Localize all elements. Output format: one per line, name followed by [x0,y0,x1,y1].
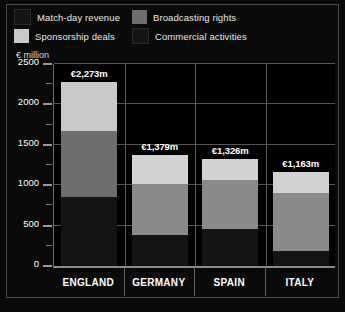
plot-area: €2,273m€1,379m€1,326m€1,163m [53,64,335,267]
y-tick-1000: 1000 [0,184,53,185]
bar-spain[interactable] [202,159,258,266]
y-tick-mark [43,63,52,65]
legend-swatch-commercial-icon [132,28,149,44]
legend-label-sponsorship: Sponsorship deals [35,31,115,42]
y-tick-label-2000: 2000 [18,96,39,107]
x-axis-label-italy: ITALY [285,277,314,288]
y-tick-2000: 2000 [0,103,53,104]
x-axis-label-england: ENGLAND [62,277,114,288]
y-tick-2500: 2500 [0,63,53,64]
bar-segment-broadcasting-rights [273,193,329,252]
y-tick-mark [43,103,52,105]
bar-segment-match-day-revenue [132,235,188,267]
bar-segment-broadcasting-rights [61,131,117,197]
bar-italy[interactable] [273,172,329,266]
y-axis-ticks: 05001000150020002500 [0,64,53,267]
bar-segment-sponsorship-deals [61,82,117,131]
y-tick-mark [46,124,52,125]
legend-item-match-day: Match-day revenue [14,9,120,25]
y-tick-label-1000: 1000 [18,177,39,188]
bar-germany[interactable] [132,155,188,266]
legend-swatch-match-day-icon [14,9,31,25]
bar-value-label-england: €2,273m [71,68,108,79]
category-separator [194,268,195,296]
bar-segment-sponsorship-deals [202,159,258,180]
legend-item-sponsorship: Sponsorship deals [14,28,115,44]
y-tick-label-2500: 2500 [18,56,39,67]
y-tick-mark [43,225,52,227]
y-tick-label-0: 0 [34,258,39,269]
x-axis-label-spain: SPAIN [214,277,245,288]
y-tick-500: 500 [0,225,53,226]
legend-label-match-day: Match-day revenue [37,12,120,23]
category-separator [195,64,196,267]
bar-value-label-italy: €1,163m [282,158,319,169]
y-tick-label-1500: 1500 [18,137,39,148]
legend-swatch-sponsorship-icon [14,29,29,43]
category-separator [125,64,126,267]
y-tick-mark [46,204,52,205]
y-tick-mark [46,245,52,246]
y-tick-mark [43,144,52,146]
bar-england[interactable] [61,82,117,266]
category-separator [265,268,266,296]
category-separator [266,64,267,267]
y-tick-0: 0 [0,265,53,266]
y-tick-250 [0,245,53,246]
legend-label-broadcasting: Broadcasting rights [153,12,236,23]
y-tick-label-500: 500 [23,218,39,229]
bar-segment-sponsorship-deals [273,172,329,193]
y-tick-mark [46,83,52,84]
y-tick-750 [0,204,53,205]
legend-swatch-broadcasting-icon [132,10,147,24]
bar-segment-broadcasting-rights [132,184,188,234]
bar-value-label-germany: €1,379m [141,141,178,152]
category-separator [124,268,125,296]
bar-segment-match-day-revenue [61,197,117,266]
bar-value-label-spain: €1,326m [212,145,249,156]
chart-legend: Match-day revenue Sponsorship deals Broa… [14,8,332,46]
legend-item-broadcasting: Broadcasting rights [132,9,236,25]
y-tick-1250 [0,164,53,165]
chart-root: Match-day revenue Sponsorship deals Broa… [0,0,345,312]
legend-item-commercial: Commercial activities [132,28,247,44]
x-axis-label-germany: GERMANY [132,277,185,288]
bar-segment-broadcasting-rights [202,180,258,229]
y-tick-1750 [0,124,53,125]
bar-segment-sponsorship-deals [132,155,188,185]
y-tick-1500: 1500 [0,144,53,145]
y-tick-2250 [0,83,53,84]
y-tick-mark [46,164,52,165]
y-tick-mark [43,184,52,186]
x-axis-labels: ENGLANDGERMANYSPAINITALY [53,267,335,298]
bar-segment-match-day-revenue [202,229,258,266]
y-tick-mark [43,265,52,267]
bar-segment-match-day-revenue [273,251,329,266]
legend-label-commercial: Commercial activities [155,31,247,42]
